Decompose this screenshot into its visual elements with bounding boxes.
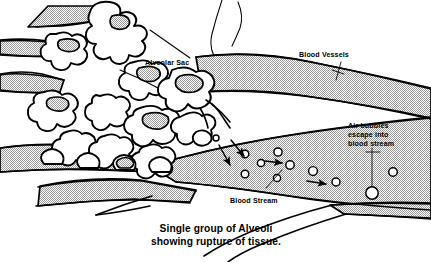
label-air-bubbles: Air bubbles escape into blood stream xyxy=(348,122,394,148)
label-blood-stream: Blood Stream xyxy=(230,197,278,205)
label-air-bubbles-line3: blood stream xyxy=(348,140,394,148)
air-bubble-icon xyxy=(241,170,249,178)
label-air-bubbles-line1: Air bubbles xyxy=(348,122,389,130)
air-bubble-icon xyxy=(213,135,219,141)
air-bubble-icon xyxy=(274,148,282,156)
air-bubble-icon xyxy=(309,167,318,176)
caption-line2: showing rupture of tissue. xyxy=(151,236,281,247)
caption-line1: Single group of Alveoli xyxy=(160,223,273,234)
air-bubble-icon xyxy=(257,159,264,166)
air-bubble-icon xyxy=(389,168,398,177)
air-bubble-icon-large xyxy=(366,187,378,199)
label-air-bubbles-line2: escape into xyxy=(348,131,389,139)
air-bubble-icon xyxy=(332,178,340,186)
diagram-canvas: Alveolar Sac Blood Vessels Blood Stream … xyxy=(0,0,431,262)
alveoli-rupture-diagram: Alveolar Sac Blood Vessels Blood Stream … xyxy=(0,0,431,262)
air-bubble-icon xyxy=(286,161,294,169)
label-blood-vessels: Blood Vessels xyxy=(299,51,349,59)
label-alveolar-sac: Alveolar Sac xyxy=(145,59,189,67)
